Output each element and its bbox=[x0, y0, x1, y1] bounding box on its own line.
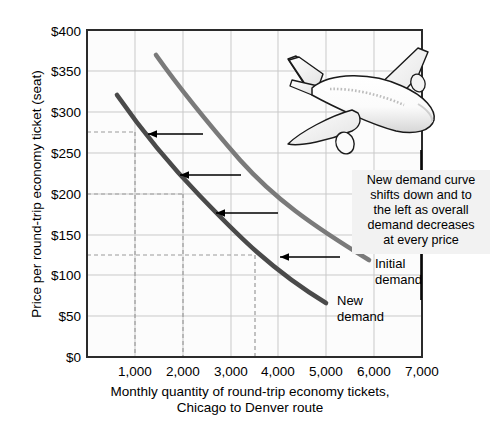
new-demand-label-line2: demand bbox=[337, 309, 384, 324]
y-tick-250: $250 bbox=[51, 146, 81, 161]
x-axis-title-line2: Chicago to Denver route bbox=[177, 400, 323, 415]
y-tick-300: $300 bbox=[51, 105, 81, 120]
annotation-line-5: at every price bbox=[383, 233, 459, 247]
demand-shift-chart-figure: $400 $350 $300 $250 $200 $150 $100 $50 $… bbox=[0, 0, 496, 425]
chart-canvas: $400 $350 $300 $250 $200 $150 $100 $50 $… bbox=[0, 0, 496, 425]
y-tick-200: $200 bbox=[51, 187, 81, 202]
y-tick-350: $350 bbox=[51, 64, 81, 79]
new-demand-label-line1: New bbox=[337, 293, 364, 308]
x-tick-1000: 1,000 bbox=[118, 364, 152, 379]
y-axis-title: Price per round-trip economy ticket (sea… bbox=[29, 70, 44, 318]
initial-demand-label-line1: Initial bbox=[375, 256, 405, 271]
x-axis-tick-labels: 1,000 2,000 3,000 4,000 5,000 6,000 7,00… bbox=[118, 364, 439, 379]
x-tick-4000: 4,000 bbox=[261, 364, 295, 379]
x-tick-5000: 5,000 bbox=[309, 364, 343, 379]
x-axis-title: Monthly quantity of round-trip economy t… bbox=[110, 384, 389, 415]
y-tick-400: $400 bbox=[51, 24, 81, 39]
y-axis-tick-labels: $400 $350 $300 $250 $200 $150 $100 $50 $… bbox=[51, 24, 81, 365]
x-tick-3000: 3,000 bbox=[214, 364, 248, 379]
x-tick-2000: 2,000 bbox=[166, 364, 200, 379]
annotation-line-4: demand decreases bbox=[367, 218, 474, 232]
annotation-line-3: the left as overall bbox=[373, 203, 468, 217]
y-tick-0: $0 bbox=[66, 350, 81, 365]
y-tick-150: $150 bbox=[51, 228, 81, 243]
y-tick-100: $100 bbox=[51, 268, 81, 283]
initial-demand-label-line2: demand bbox=[375, 272, 422, 287]
annotation-line-1: New demand curve bbox=[367, 173, 476, 187]
x-axis-title-line1: Monthly quantity of round-trip economy t… bbox=[110, 384, 389, 399]
y-tick-50: $50 bbox=[58, 309, 81, 324]
x-tick-6000: 6,000 bbox=[357, 364, 391, 379]
annotation-line-2: shifts down and to bbox=[370, 188, 472, 202]
x-tick-7000: 7,000 bbox=[405, 364, 439, 379]
